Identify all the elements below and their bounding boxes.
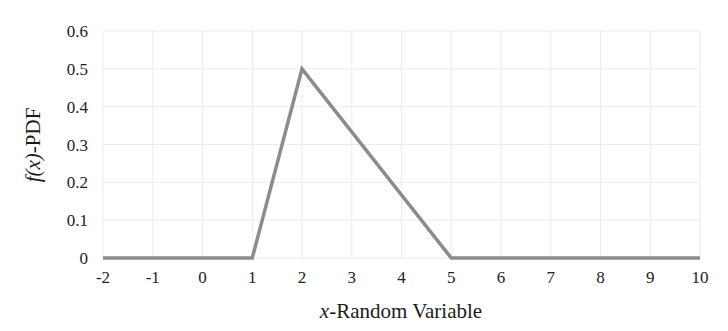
- x-tick-label: 6: [497, 268, 506, 287]
- y-axis-label-var: f(x): [21, 153, 45, 182]
- pdf-chart: 00.10.20.30.40.50.6 -2-1012345678910 x-R…: [0, 0, 728, 331]
- x-axis-label-rest: -Random Variable: [329, 299, 482, 323]
- x-tick-label: 4: [397, 268, 406, 287]
- x-tick-label: 5: [447, 268, 456, 287]
- y-tick-label: 0.5: [67, 60, 88, 79]
- x-tick-label: 10: [692, 268, 709, 287]
- x-tick-label: 9: [646, 268, 655, 287]
- x-tick-label: 0: [198, 268, 207, 287]
- x-tick-label: 7: [547, 268, 556, 287]
- x-axis-ticks: -2-1012345678910: [96, 268, 709, 287]
- x-tick-label: -1: [146, 268, 160, 287]
- y-axis-label-rest: -PDF: [21, 108, 45, 154]
- x-tick-label: -2: [96, 268, 110, 287]
- x-axis-label: x-Random Variable: [319, 299, 482, 323]
- y-tick-label: 0.3: [67, 136, 88, 155]
- x-tick-label: 3: [348, 268, 357, 287]
- y-tick-label: 0.6: [67, 22, 88, 41]
- x-tick-label: 2: [298, 268, 307, 287]
- x-tick-label: 1: [248, 268, 257, 287]
- y-tick-label: 0.2: [67, 173, 88, 192]
- y-axis-label: f(x)-PDF: [21, 108, 45, 183]
- y-axis-ticks: 00.10.20.30.40.50.6: [67, 22, 89, 268]
- grid-lines: [103, 31, 700, 258]
- y-tick-label: 0: [80, 249, 89, 268]
- x-tick-label: 8: [596, 268, 605, 287]
- y-tick-label: 0.1: [67, 211, 88, 230]
- y-tick-label: 0.4: [67, 98, 89, 117]
